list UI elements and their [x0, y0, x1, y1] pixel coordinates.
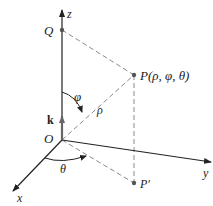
y-axis	[62, 140, 211, 162]
x-axis-label: x	[16, 191, 23, 205]
point-q-label: Q	[44, 23, 54, 38]
point-q	[60, 28, 64, 32]
x-axis	[13, 140, 62, 191]
rho-label: ρ	[96, 103, 103, 117]
k-vector-label: k	[47, 113, 54, 127]
z-axis-label: z	[66, 7, 72, 21]
point-p-label: P(ρ, φ, θ)	[139, 68, 189, 83]
origin-label: O	[44, 131, 54, 146]
theta-angle-label: θ	[60, 162, 66, 176]
phi-angle-label: φ	[74, 89, 81, 104]
y-axis-label: y	[202, 166, 209, 180]
theta-angle-arc	[45, 156, 86, 161]
dashed-line-q-to-p	[62, 30, 134, 75]
point-p	[132, 73, 136, 77]
point-p-prime	[132, 181, 136, 185]
spherical-coordinates-diagram: z y x O k Q P(ρ, φ, θ) P′ φ θ ρ	[0, 0, 213, 206]
point-p-prime-label: P′	[139, 177, 150, 191]
dashed-line-o-to-p-prime	[62, 140, 134, 183]
